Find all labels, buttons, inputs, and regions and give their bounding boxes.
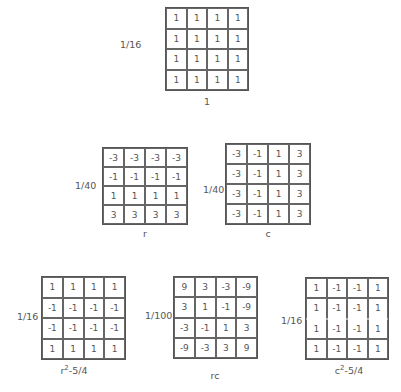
- cell: -3: [166, 148, 187, 167]
- cell: 3: [195, 277, 216, 297]
- cell: 1: [228, 29, 249, 50]
- cell: -1: [247, 184, 268, 204]
- cell: -1: [63, 318, 84, 339]
- cell: -1: [42, 318, 63, 339]
- cell: 1: [166, 186, 187, 205]
- cell: -1: [195, 318, 216, 338]
- cell: 3: [289, 184, 310, 204]
- cell: -1: [347, 298, 368, 318]
- cell: 9: [236, 338, 257, 358]
- cell: 1: [228, 70, 249, 91]
- cell: -3: [195, 338, 216, 358]
- cell: -3: [226, 204, 247, 224]
- cell: 3: [216, 338, 237, 358]
- cell: 1: [306, 298, 327, 318]
- cell: 1: [104, 339, 125, 360]
- cell: -1: [347, 278, 368, 298]
- cell: -1: [84, 318, 105, 339]
- cell: 1: [368, 319, 389, 339]
- cell: 3: [289, 144, 310, 164]
- cell: -9: [236, 297, 257, 317]
- cell: 3: [124, 205, 145, 224]
- cell: 1: [166, 70, 187, 91]
- cell: 1: [368, 298, 389, 318]
- cell: -3: [145, 148, 166, 167]
- cell: 1: [187, 29, 208, 50]
- cell: 1: [42, 339, 63, 360]
- cell: -1: [103, 167, 124, 186]
- cell: -3: [174, 318, 195, 338]
- cell: -1: [166, 167, 187, 186]
- scale-factor: 1/40: [75, 180, 96, 191]
- cell: -3: [226, 164, 247, 184]
- cell: 1: [207, 70, 228, 91]
- scale-factor: 1/40: [203, 184, 224, 195]
- cell: 1: [306, 278, 327, 298]
- cell: 1: [268, 144, 289, 164]
- cell: 1: [166, 49, 187, 70]
- grid-c: -3 -1 1 3 -3 -1 1 3 -3 -1 1 3 -3 -1 1 3: [225, 143, 311, 225]
- scale-factor: 1/100: [145, 310, 172, 321]
- cell: 1: [187, 70, 208, 91]
- cell: 1: [42, 277, 63, 298]
- cell: 1: [104, 277, 125, 298]
- cell: 1: [124, 186, 145, 205]
- cell: 1: [187, 8, 208, 29]
- cell: 1: [207, 49, 228, 70]
- matrix-label: r2-5/4: [54, 364, 94, 376]
- cell: 1: [145, 186, 166, 205]
- grid-rc: 9 3 -3 -9 3 1 -1 -9 -3 -1 1 3 -9 -3 3 9: [173, 276, 258, 359]
- cell: 1: [103, 186, 124, 205]
- cell: -1: [247, 144, 268, 164]
- cell: 1: [268, 164, 289, 184]
- cell: -1: [247, 204, 268, 224]
- cell: 1: [268, 184, 289, 204]
- cell: -1: [327, 319, 348, 339]
- cell: -1: [42, 298, 63, 319]
- matrix-label: 1: [200, 96, 214, 107]
- cell: -1: [145, 167, 166, 186]
- cell: -3: [216, 277, 237, 297]
- cell: -1: [104, 298, 125, 319]
- cell: -1: [347, 339, 368, 359]
- scale-factor: 1/16: [17, 311, 38, 322]
- grid-r-squared: 1 1 1 1 -1 -1 -1 -1 -1 -1 -1 -1 1 1 1 1: [41, 276, 126, 360]
- label-rest: -5/4: [344, 365, 363, 376]
- cell: 1: [84, 339, 105, 360]
- cell: 3: [289, 204, 310, 224]
- cell: -3: [226, 144, 247, 164]
- label-rest: -5/4: [69, 365, 88, 376]
- cell: 1: [228, 49, 249, 70]
- matrix-label: rc: [205, 370, 225, 381]
- cell: -3: [103, 148, 124, 167]
- cell: 3: [103, 205, 124, 224]
- cell: -1: [124, 167, 145, 186]
- cell: 3: [289, 164, 310, 184]
- cell: -1: [63, 298, 84, 319]
- cell: 1: [228, 8, 249, 29]
- cell: 3: [166, 205, 187, 224]
- scale-factor: 1/16: [120, 39, 141, 50]
- cell: -1: [84, 298, 105, 319]
- grid-r: -3 -3 -3 -3 -1 -1 -1 -1 1 1 1 1 3 3 3 3: [102, 147, 188, 225]
- cell: 1: [207, 8, 228, 29]
- cell: 1: [306, 339, 327, 359]
- cell: -1: [327, 278, 348, 298]
- cell: 1: [166, 8, 187, 29]
- cell: 1: [166, 29, 187, 50]
- cell: -1: [216, 297, 237, 317]
- cell: 1: [306, 319, 327, 339]
- cell: -9: [174, 338, 195, 358]
- cell: 1: [207, 29, 228, 50]
- matrix-label: r: [138, 228, 152, 239]
- cell: 1: [195, 297, 216, 317]
- grid-constant: 1 1 1 1 1 1 1 1 1 1 1 1 1 1 1 1: [165, 7, 249, 91]
- cell: 3: [236, 318, 257, 338]
- cell: 3: [174, 297, 195, 317]
- matrix-label: c2-5/4: [329, 364, 369, 376]
- cell: 1: [368, 339, 389, 359]
- cell: 1: [84, 277, 105, 298]
- cell: -3: [226, 184, 247, 204]
- cell: -1: [327, 339, 348, 359]
- scale-factor: 1/16: [281, 315, 302, 326]
